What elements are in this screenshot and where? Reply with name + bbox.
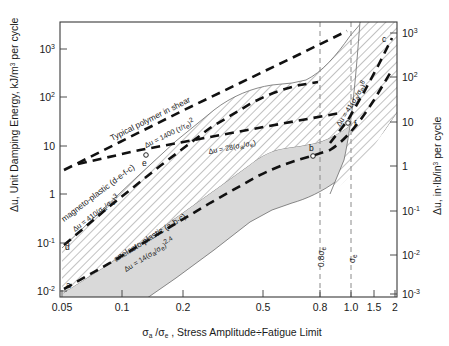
xtick-1.5: 1.5 — [367, 301, 382, 313]
xtick-0.8: 0.8 — [313, 301, 328, 313]
point-label-e: e — [142, 158, 147, 168]
xtick-2: 2 — [392, 301, 398, 313]
xtick-1.0: 1.0 — [344, 301, 359, 313]
ytick-right-10: 10 — [402, 116, 414, 128]
xtick-0.05: 0.05 — [52, 301, 73, 313]
damping-energy-chart: 0.8σe σe a d e b f c Typical polymer in … — [0, 0, 449, 346]
ytick-left-1: 1 — [49, 188, 55, 200]
ytick-left-10: 10 — [43, 140, 55, 152]
xtick-0.5: 0.5 — [256, 301, 271, 313]
chart-svg: 0.8σe σe a d e b f c Typical polymer in … — [0, 0, 449, 346]
xtick-0.1: 0.1 — [115, 301, 130, 313]
point-marker-e — [144, 153, 149, 158]
point-marker-b — [311, 154, 316, 159]
ytick-right-1: 1 — [402, 160, 408, 172]
point-label-a: a — [66, 280, 71, 290]
point-label-b: b — [309, 143, 314, 153]
y-axis-right-title: Δu, in·lb/in3 per cycle — [431, 117, 443, 215]
xtick-0.2: 0.2 — [176, 301, 191, 313]
point-marker-f — [346, 121, 351, 126]
x-axis-title: σa /σe , Stress Amplitude÷Fatigue Limit — [142, 326, 322, 339]
y-axis-left-title: Δu, Unit Damping Energy, kJ/m3 per cycle — [8, 18, 20, 212]
point-label-d: d — [65, 242, 70, 252]
